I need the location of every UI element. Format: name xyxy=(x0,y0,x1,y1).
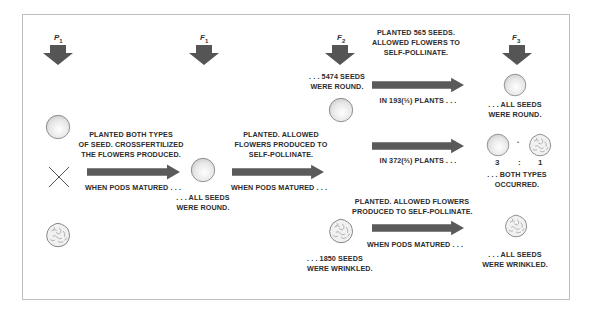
f2-wrinkled-step: PLANTED. ALLOWED FLOWERS PRODUCED TO SEL… xyxy=(352,197,472,217)
f3-round-result: . . . ALL SEEDS WERE ROUND. xyxy=(482,100,548,120)
f1-result: . . . ALL SEEDS WERE ROUND. xyxy=(168,193,238,213)
round-seed-icon xyxy=(328,97,354,123)
down-arrow-icon xyxy=(43,45,73,65)
right-arrow-icon xyxy=(372,138,464,154)
generation-label-f1: F1 xyxy=(200,33,208,44)
right-arrow-icon xyxy=(87,164,180,180)
down-arrow-icon xyxy=(325,45,355,65)
right-arrow-icon xyxy=(232,164,324,180)
ratio-right: 1 xyxy=(538,158,542,167)
round-seed-icon xyxy=(45,114,71,140)
p1-step-after: WHEN PODS MATURED . . . xyxy=(78,183,188,193)
down-arrow-icon xyxy=(502,45,532,65)
f1-step-text: PLANTED. ALLOWED FLOWERS PRODUCED TO SEL… xyxy=(226,130,336,160)
generation-label-f3: F3 xyxy=(512,33,520,44)
generation-label-f2: F2 xyxy=(337,33,345,44)
ratio-left: 3 xyxy=(495,158,499,167)
wrinkled-seed-icon xyxy=(45,222,71,248)
right-arrow-icon xyxy=(372,220,464,236)
f2-wrinkled-result: . . . 1850 SEEDS WERE WRINKLED. xyxy=(307,254,387,274)
cross-symbol-icon xyxy=(48,166,70,188)
round-seed-icon xyxy=(190,157,216,183)
wrinkled-seed-icon xyxy=(328,218,354,244)
f2-branch-1: IN 193(⅓) PLANTS . . . xyxy=(368,96,468,106)
right-arrow-icon xyxy=(372,77,464,93)
f3-mixed-result: . . . BOTH TYPES OCCURRED. xyxy=(482,170,552,190)
f2-branch-2: IN 372(⅔) PLANTS . . . xyxy=(368,156,468,166)
round-seed-icon xyxy=(503,73,527,97)
round-seed-icon xyxy=(486,133,510,157)
ratio-plus: • xyxy=(517,139,519,145)
f2-round-result: . . . 5474 SEEDS WERE ROUND. xyxy=(301,72,373,92)
p1-step-text: PLANTED BOTH TYPES OF SEED. CROSSFERTILI… xyxy=(76,130,186,160)
f2-top-step: PLANTED 565 SEEDS. ALLOWED FLOWERS TO SE… xyxy=(366,28,466,58)
generation-label-p1: P1 xyxy=(54,33,63,44)
f1-step-after: WHEN PODS MATURED . . . xyxy=(224,183,334,193)
f3-wrinkled-result: . . . ALL SEEDS WERE WRINKLED. xyxy=(478,250,552,270)
f2-wrinkled-after: WHEN PODS MATURED . . . xyxy=(360,240,470,250)
down-arrow-icon xyxy=(189,45,219,65)
ratio-separator: : xyxy=(518,158,521,167)
wrinkled-seed-icon xyxy=(504,214,528,238)
wrinkled-seed-icon xyxy=(528,133,552,157)
